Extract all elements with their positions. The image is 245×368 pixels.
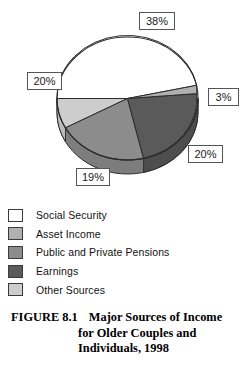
- callout-asset-income: 3%: [208, 88, 239, 106]
- legend-swatch-other-sources: [8, 283, 23, 296]
- legend-swatch-social-security: [8, 209, 23, 222]
- legend-label-pensions: Public and Private Pensions: [36, 246, 169, 258]
- figure-container: 38% 3% 20% 19% 20% Social Security Asset…: [0, 0, 245, 368]
- pie-chart: 38% 3% 20% 19% 20%: [0, 0, 245, 200]
- legend-label-social-security: Social Security: [36, 209, 107, 221]
- legend-swatch-earnings: [8, 265, 23, 278]
- callout-social-security: 38%: [139, 12, 175, 30]
- callout-earnings: 20%: [188, 145, 223, 163]
- figure-caption: FIGURE 8.1 Major Sources of Income for O…: [11, 310, 239, 357]
- caption-line-3: Individuals, 1998: [11, 341, 239, 357]
- caption-line-1: Major Sources of Income: [89, 310, 222, 326]
- legend-swatch-asset-income: [8, 227, 23, 240]
- callout-other-sources: 20%: [27, 72, 62, 90]
- figure-number: FIGURE 8.1: [11, 310, 78, 326]
- legend-item-social-security: Social Security: [0, 206, 245, 225]
- caption-first-line: FIGURE 8.1 Major Sources of Income: [11, 310, 239, 326]
- callout-pensions: 19%: [76, 168, 110, 186]
- caption-line-2: for Older Couples and: [11, 326, 239, 342]
- legend-label-earnings: Earnings: [36, 265, 78, 277]
- legend-item-asset-income: Asset Income: [0, 225, 245, 244]
- legend-label-asset-income: Asset Income: [36, 228, 101, 240]
- legend-item-earnings: Earnings: [0, 262, 245, 281]
- legend-item-pensions: Public and Private Pensions: [0, 243, 245, 262]
- legend-label-other-sources: Other Sources: [36, 284, 105, 296]
- chart-legend: Social Security Asset Income Public and …: [0, 206, 245, 299]
- legend-item-other-sources: Other Sources: [0, 280, 245, 299]
- legend-swatch-pensions: [8, 246, 23, 259]
